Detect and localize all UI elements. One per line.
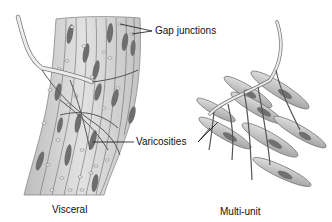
- multi-unit-muscle: [194, 22, 329, 191]
- label-multi-unit: Multi-unit: [220, 207, 261, 217]
- smooth-muscle-diagram: Gap junctions Varicosities Visceral Mult…: [0, 0, 332, 222]
- label-gap-junctions: Gap junctions: [155, 26, 216, 36]
- label-visceral: Visceral: [52, 205, 87, 215]
- visceral-muscle-sheet: [18, 17, 141, 195]
- label-varicosities: Varicosities: [136, 137, 186, 147]
